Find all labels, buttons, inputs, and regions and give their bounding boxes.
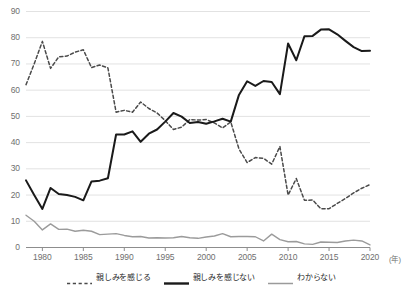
gridlines-group <box>26 12 370 222</box>
legend-swatch-solid-black <box>164 273 189 280</box>
x-axis-tick-label: 2010 <box>271 252 305 262</box>
chart-legend: 親しみを感じる親しみを感じないわからない <box>0 268 403 284</box>
chart-plot-area <box>0 0 403 287</box>
x-axis-tick-label: 1985 <box>66 252 100 262</box>
y-axis-tick-label: 40 <box>2 137 20 147</box>
data-series-group <box>26 29 370 245</box>
y-axis-tick-label: 0 <box>2 242 20 252</box>
legend-label: 親しみを感じない <box>193 271 255 282</box>
legend-label: 親しみを感じる <box>96 271 151 282</box>
x-axis-tick-label: 2015 <box>312 252 346 262</box>
series-line-2 <box>26 29 370 209</box>
legend-label: わからない <box>297 271 336 282</box>
y-axis-tick-label: 70 <box>2 58 20 68</box>
y-axis-tick-label: 90 <box>2 6 20 16</box>
x-axis-tick-label: 1980 <box>25 252 59 262</box>
y-axis-tick-label: 10 <box>2 216 20 226</box>
y-axis-tick-label: 80 <box>2 32 20 42</box>
y-axis-tick-label: 50 <box>2 111 20 121</box>
y-axis-tick-label: 30 <box>2 163 20 173</box>
legend-swatch-solid-gray <box>268 273 293 280</box>
x-axis-tick-label: 2000 <box>189 252 223 262</box>
x-axis-tick-label: 1990 <box>107 252 141 262</box>
x-axis-tick-label: 2020 <box>353 252 387 262</box>
x-axis-unit-label: (年) <box>389 253 401 264</box>
legend-item: わからない <box>268 271 336 282</box>
line-chart-container: 0102030405060708090 19801985199019952000… <box>0 0 403 287</box>
legend-swatch-dashed-dark <box>67 273 92 280</box>
legend-item: 親しみを感じる <box>67 271 151 282</box>
legend-item: 親しみを感じない <box>164 271 255 282</box>
series-line-3 <box>26 215 370 245</box>
y-axis-tick-label: 60 <box>2 85 20 95</box>
y-axis-tick-label: 20 <box>2 190 20 200</box>
x-axis-tick-label: 1995 <box>148 252 182 262</box>
x-axis-ticks-group <box>42 248 370 252</box>
series-line-1 <box>26 41 370 208</box>
x-axis-tick-label: 2005 <box>230 252 264 262</box>
